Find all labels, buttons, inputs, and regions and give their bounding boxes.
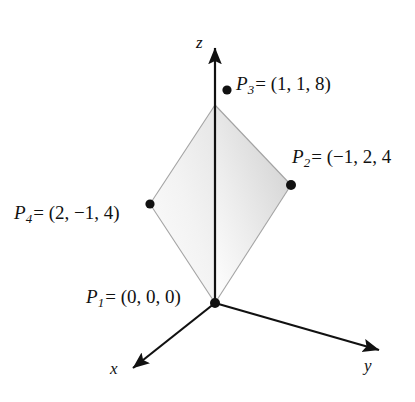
point-label-p3-var: P bbox=[236, 73, 248, 94]
face-left-triangle bbox=[150, 105, 215, 303]
axis-label-z: z bbox=[196, 34, 203, 51]
axis-label-x: x bbox=[110, 360, 118, 377]
figure-3d-coordinate-diagram: P3= (1, 1, 8) P2= (−1, 2, 4 P4= (2, −1, … bbox=[0, 0, 415, 402]
face-right-triangle bbox=[215, 105, 291, 303]
point-label-p4: P4= (2, −1, 4) bbox=[14, 203, 120, 226]
point-dot-p3 bbox=[222, 85, 231, 94]
point-dot-p2 bbox=[286, 180, 296, 190]
point-label-p1-var: P bbox=[86, 286, 98, 307]
point-dot-p1 bbox=[210, 298, 220, 308]
axis-label-y: y bbox=[364, 357, 372, 374]
point-label-p3: P3= (1, 1, 8) bbox=[236, 74, 331, 97]
point-label-p2: P2= (−1, 2, 4 bbox=[292, 147, 391, 170]
point-label-p3-value: = (1, 1, 8) bbox=[254, 73, 331, 94]
point-dot-p4 bbox=[145, 199, 154, 208]
point-label-p1: P1= (0, 0, 0) bbox=[86, 287, 181, 310]
point-label-p2-value: = (−1, 2, 4 bbox=[310, 146, 391, 167]
diagram-canvas bbox=[0, 0, 415, 402]
point-label-p4-var: P bbox=[14, 202, 26, 223]
axis-x-line bbox=[133, 303, 215, 368]
point-label-p1-value: = (0, 0, 0) bbox=[104, 286, 181, 307]
point-label-p4-value: = (2, −1, 4) bbox=[32, 202, 119, 223]
point-label-p2-var: P bbox=[292, 146, 304, 167]
axis-y-line bbox=[215, 303, 379, 350]
quadrilateral-faces bbox=[150, 105, 291, 303]
